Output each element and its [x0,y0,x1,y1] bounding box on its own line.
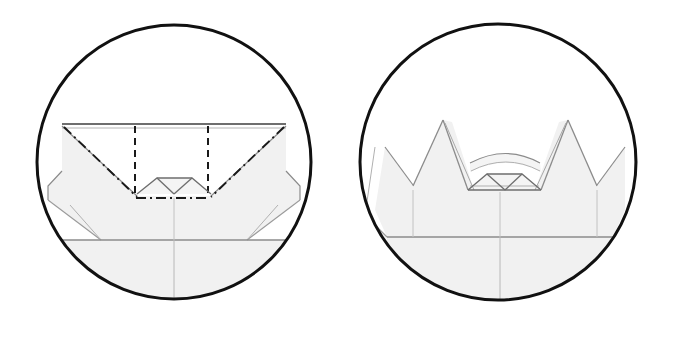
technical-drawing-canvas [0,0,674,353]
figure-root: flat-unfolded folded-peaks Two circular … [0,0,674,353]
